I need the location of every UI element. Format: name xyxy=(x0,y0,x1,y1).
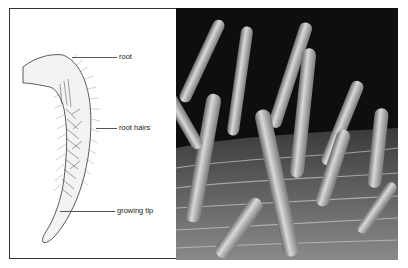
root-drawing-panel: root root hairs growing tip xyxy=(9,8,176,259)
root-hairs-leader-line xyxy=(96,128,117,129)
label-root-hairs: root hairs xyxy=(119,123,150,132)
label-growing-tip: growing tip xyxy=(117,206,153,215)
root-leader-line xyxy=(72,57,117,58)
label-root: root xyxy=(119,52,132,61)
micrograph-image xyxy=(176,8,398,260)
root-hairs-micrograph xyxy=(176,8,398,260)
root-illustration xyxy=(10,9,177,260)
root-hairs-figure: root root hairs growing tip xyxy=(9,8,398,260)
growing-tip-leader-line xyxy=(60,211,115,212)
